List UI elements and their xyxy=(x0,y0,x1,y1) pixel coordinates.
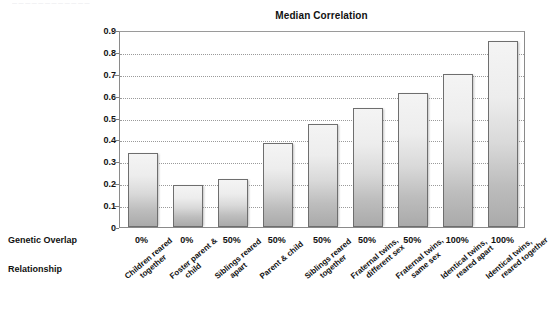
gridline xyxy=(120,54,524,55)
y-axis-tick-label: 0 xyxy=(90,224,116,233)
y-axis-tick-mark xyxy=(114,97,119,98)
y-axis-tick-label: 0.4 xyxy=(90,136,116,145)
y-axis-tick-mark xyxy=(114,53,119,54)
genetic-overlap-value: 0% xyxy=(120,235,164,245)
y-axis-tick-mark xyxy=(114,140,119,141)
y-axis-tick-mark xyxy=(114,228,119,229)
genetic-overlap-row-label: Genetic Overlap xyxy=(8,235,77,245)
bar xyxy=(263,143,293,227)
bar xyxy=(173,185,203,227)
bar xyxy=(488,41,518,227)
y-axis-tick-label: 0.1 xyxy=(90,202,116,211)
y-axis-tick-mark xyxy=(114,75,119,76)
relationship-row-values: Children rearedtogetherFoster parent &ch… xyxy=(119,252,539,330)
y-axis-tick-mark xyxy=(114,31,119,32)
y-axis-tick-mark xyxy=(114,162,119,163)
y-axis-tick-label: 0.8 xyxy=(90,49,116,58)
chart-title: Median Correlation xyxy=(118,10,525,21)
y-axis-tick-label: 0.3 xyxy=(90,158,116,167)
plot-area xyxy=(119,31,525,228)
y-axis-tick-label: 0.6 xyxy=(90,93,116,102)
bar xyxy=(443,74,473,227)
bar xyxy=(218,179,248,227)
bar xyxy=(353,108,383,227)
bar xyxy=(308,124,338,227)
genetic-overlap-row-values: 0%0%50%50%50%50%50%100%100% xyxy=(119,235,525,249)
y-axis-tick-mark xyxy=(114,119,119,120)
y-axis-tick-label: 0.9 xyxy=(90,27,116,36)
y-axis-tick-label: 0.5 xyxy=(90,115,116,124)
y-axis-tick-label: 0.7 xyxy=(90,71,116,80)
relationship-row-label: Relationship xyxy=(8,264,62,274)
y-axis-tick-mark xyxy=(114,206,119,207)
bar xyxy=(398,93,428,227)
y-axis-tick-mark xyxy=(114,184,119,185)
bar xyxy=(128,153,158,227)
y-axis-tick-labels: 0.90.80.70.60.50.40.30.20.10 xyxy=(88,0,116,330)
y-axis-tick-label: 0.2 xyxy=(90,180,116,189)
